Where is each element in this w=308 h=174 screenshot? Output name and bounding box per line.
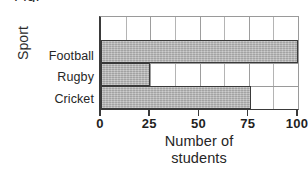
- category-label-column: Football Rugby Cricket: [20, 24, 98, 110]
- bar-chart-figure: Sport Football Rugby Cricket 0255075100 …: [0, 0, 308, 174]
- plot-area: [99, 16, 299, 110]
- category-label-football: Football: [20, 46, 98, 68]
- bar-football: [101, 40, 298, 63]
- x-tick-label-100: 100: [286, 116, 308, 131]
- x-axis-title: Number of students: [99, 133, 299, 167]
- x-tick-label-75: 75: [240, 116, 255, 131]
- x-tick-label-50: 50: [191, 116, 206, 131]
- category-label-cricket: Cricket: [20, 89, 98, 111]
- bar-cricket: [101, 86, 251, 109]
- category-label-rugby: Rugby: [20, 67, 98, 89]
- bar-rugby: [101, 63, 150, 86]
- x-tick-label-25: 25: [142, 116, 157, 131]
- category-label-spacer: [20, 24, 98, 46]
- x-axis-title-line-1: Number of: [99, 133, 299, 150]
- x-tick-label-0: 0: [96, 116, 103, 131]
- x-axis-title-line-2: students: [99, 150, 299, 167]
